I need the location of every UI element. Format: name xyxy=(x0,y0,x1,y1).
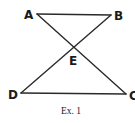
segment-ac xyxy=(37,14,126,94)
label-c: C xyxy=(129,89,135,103)
diagram-canvas: A B E D C Ex. 1 xyxy=(0,0,135,123)
label-e: E xyxy=(69,54,77,68)
geometry-figure: A B E D C Ex. 1 xyxy=(0,0,135,123)
label-b: B xyxy=(114,9,123,23)
segment-dc xyxy=(21,93,126,94)
segment-bd xyxy=(21,15,111,93)
label-d: D xyxy=(8,88,18,102)
segment-ab xyxy=(37,14,111,15)
figure-caption: Ex. 1 xyxy=(61,106,81,116)
label-a: A xyxy=(24,8,34,22)
